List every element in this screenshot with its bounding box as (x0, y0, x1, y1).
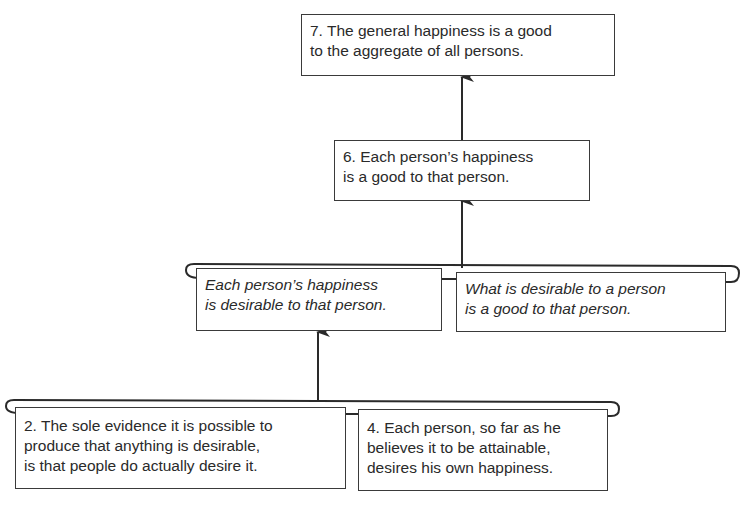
node-text: is a good to that person. (465, 299, 717, 319)
node-text: 2. The sole evidence it is possible to (24, 416, 337, 436)
node-premise-2: 2. The sole evidence it is possible to p… (15, 407, 346, 489)
node-text: 4. Each person, so far as he (367, 418, 599, 438)
node-text: is that people do actually desire it. (24, 456, 337, 476)
node-text: believes it to be attainable, (367, 438, 599, 458)
node-claim-6: 6. Each person’s happiness is a good to … (334, 140, 590, 201)
node-text: What is desirable to a person (465, 279, 717, 299)
node-text: Each person’s happiness (205, 275, 433, 295)
node-text: is desirable to that person. (205, 295, 433, 315)
node-text: 7. The general happiness is a good (310, 21, 606, 41)
node-premise-4: 4. Each person, so far as he believes it… (358, 409, 608, 491)
node-claim-7: 7. The general happiness is a good to th… (301, 14, 615, 76)
node-implicit-premise-a: Each person’s happiness is desirable to … (196, 268, 442, 331)
node-text: produce that anything is desirable, (24, 436, 337, 456)
node-text: to the aggregate of all persons. (310, 41, 606, 61)
node-text: desires his own happiness. (367, 458, 599, 478)
node-implicit-premise-b: What is desirable to a person is a good … (456, 272, 726, 332)
node-text: 6. Each person’s happiness (343, 147, 581, 167)
node-text: is a good to that person. (343, 167, 581, 187)
